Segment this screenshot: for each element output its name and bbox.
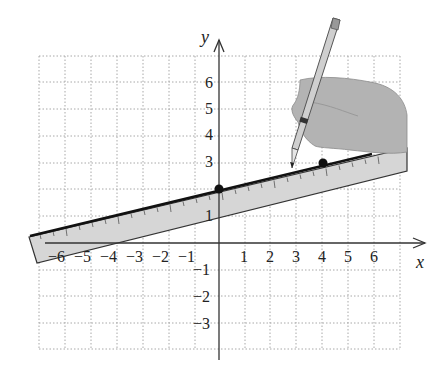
svg-text:4: 4 xyxy=(318,248,326,265)
svg-text:−3: −3 xyxy=(193,315,210,332)
point-0-2 xyxy=(215,185,224,194)
svg-text:5: 5 xyxy=(205,100,213,117)
svg-text:6: 6 xyxy=(205,74,213,91)
svg-text:1: 1 xyxy=(240,248,248,265)
ruler xyxy=(29,148,407,263)
svg-text:1: 1 xyxy=(205,207,213,224)
point-4-3 xyxy=(319,159,328,168)
svg-text:−2: −2 xyxy=(152,248,169,265)
svg-text:3: 3 xyxy=(292,248,300,265)
svg-text:2: 2 xyxy=(266,248,274,265)
svg-text:−3: −3 xyxy=(126,248,143,265)
svg-text:6: 6 xyxy=(370,248,378,265)
svg-text:3: 3 xyxy=(205,153,213,170)
svg-text:−2: −2 xyxy=(193,288,210,305)
svg-text:−1: −1 xyxy=(193,261,210,278)
svg-text:4: 4 xyxy=(205,126,213,143)
svg-text:−5: −5 xyxy=(74,248,91,265)
svg-text:−4: −4 xyxy=(100,248,117,265)
x-tick-labels: −6 −5 −4 −3 −2 −1 1 2 3 4 5 6 xyxy=(48,248,378,265)
coordinate-plane-figure: y x −6 −5 −4 −3 −2 −1 1 2 3 4 5 6 1 3 4 … xyxy=(0,0,443,366)
svg-text:5: 5 xyxy=(344,248,352,265)
x-axis-label: x xyxy=(415,252,424,272)
svg-text:−6: −6 xyxy=(48,248,65,265)
y-axis-label: y xyxy=(199,27,209,47)
